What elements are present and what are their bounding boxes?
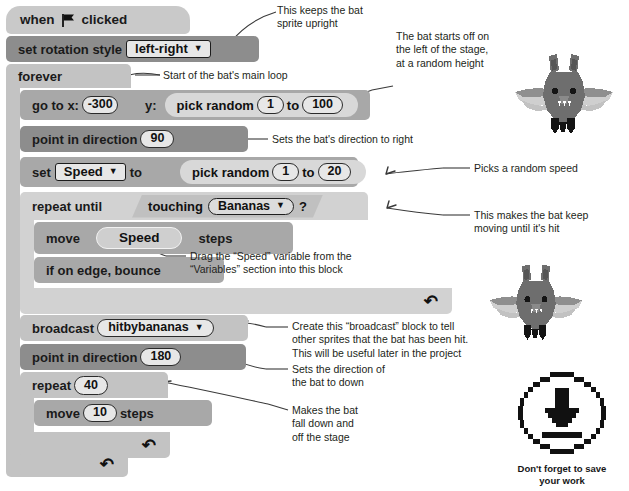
green-flag-icon — [61, 13, 76, 28]
pick-random-label: pick random — [177, 99, 254, 112]
chevron-down-icon: ▼ — [195, 323, 204, 332]
chevron-down-icon: ▼ — [276, 201, 285, 210]
forever-header[interactable]: forever — [6, 64, 131, 88]
repeat-left-spine — [20, 398, 34, 432]
forever-left-spine — [6, 88, 20, 451]
pick-random-from-input[interactable]: 1 — [257, 96, 284, 114]
go-to-x-label: go to x: — [32, 99, 79, 112]
note-random-speed: Picks a random speed — [474, 162, 624, 175]
block-broadcast[interactable]: broadcast hitbybananas ▼ — [20, 315, 248, 341]
repeat-until-left-spine — [20, 220, 34, 288]
repeat-until-label: repeat until — [32, 199, 102, 214]
loop-arrow-icon: ↷ — [424, 291, 438, 312]
direction-value-input[interactable]: 180 — [140, 348, 181, 366]
bat-sprite-icon — [509, 48, 619, 144]
point-in-direction-label: point in direction — [32, 351, 137, 364]
bat-sprite-icon — [484, 258, 588, 350]
repeat-until-footer[interactable]: ↷ — [20, 288, 452, 314]
when-label: when — [20, 13, 55, 27]
bat-sprite-bottom — [484, 258, 588, 354]
note-main-loop: Start of the bat's main loop — [163, 69, 343, 82]
speed-variable-dropdown[interactable]: Speed ▼ — [55, 163, 126, 181]
repeat-header[interactable]: repeat 40 — [20, 372, 168, 398]
repeat-until-header[interactable]: repeat until touching Bananas ▼ ? — [20, 192, 368, 220]
save-reminder: Don't forget to save your work — [512, 370, 612, 487]
block-point-in-direction-90[interactable]: point in direction 90 — [20, 126, 248, 152]
save-reminder-caption: Don't forget to save your work — [512, 463, 612, 487]
move-label: move — [46, 232, 80, 245]
if-on-edge-bounce-label: if on edge, bounce — [46, 264, 161, 277]
block-set-speed[interactable]: set Speed ▼ to pick random 1 to 20 — [20, 157, 358, 187]
block-point-in-direction-180[interactable]: point in direction 180 — [20, 344, 246, 370]
note-broadcast: Create this “broadcast” block to tell ot… — [292, 320, 507, 360]
forever-label: forever — [18, 69, 62, 84]
set-label: set — [32, 166, 51, 179]
steps-label: steps — [198, 232, 232, 245]
pick-random-to-label: to — [287, 99, 299, 112]
block-move-10-steps[interactable]: move 10 steps — [34, 400, 212, 426]
move-label: move — [46, 407, 80, 420]
block-when-flag-clicked[interactable]: when clicked — [6, 6, 190, 34]
y-label: y: — [145, 99, 157, 112]
pick-random-to-label: to — [302, 166, 314, 179]
note-direction-right: Sets the bat's direction to right — [272, 133, 472, 146]
touching-label: touching — [148, 199, 203, 214]
note-upright: This keeps the bat sprite upright — [277, 4, 417, 31]
pick-random-to-input[interactable]: 100 — [302, 96, 343, 114]
loop-arrow-icon: ↷ — [142, 435, 156, 456]
chevron-down-icon: ▼ — [109, 167, 118, 176]
download-save-icon — [512, 370, 612, 456]
speed-variable-label: Speed — [119, 231, 160, 245]
pick-random-label: pick random — [192, 166, 269, 179]
speed-variable-name: Speed — [64, 165, 103, 178]
block-set-rotation-style[interactable]: set rotation style left-right ▼ — [6, 36, 259, 62]
touching-question-mark: ? — [299, 199, 307, 214]
repeat-label: repeat — [32, 378, 71, 393]
x-value-input[interactable]: -300 — [82, 96, 118, 114]
note-fall-down: Makes the bat fall down and off the stag… — [292, 404, 402, 444]
pick-random-from-input[interactable]: 1 — [272, 163, 299, 181]
touching-boolean[interactable]: touching Bananas ▼ ? — [132, 195, 323, 218]
speed-variable-reporter[interactable]: Speed — [96, 227, 183, 249]
repeat-footer[interactable]: ↷ — [20, 432, 170, 458]
touching-target-value: Bananas — [218, 199, 270, 213]
broadcast-label: broadcast — [32, 322, 94, 335]
pick-random-reporter-speed[interactable]: pick random 1 to 20 — [180, 160, 366, 184]
set-rotation-style-label: set rotation style — [18, 43, 122, 56]
touching-target-dropdown[interactable]: Bananas ▼ — [208, 198, 294, 215]
note-keep-moving: This makes the bat keep moving until it'… — [474, 209, 626, 236]
note-drag-speed: Drag the “Speed” variable from the “Vari… — [190, 250, 410, 277]
block-go-to-xy[interactable]: go to x: -300 y: pick random 1 to 100 — [20, 90, 370, 120]
move-steps-input[interactable]: 10 — [83, 404, 117, 422]
scratch-script-diagram: when clicked set rotation style left-rig… — [0, 0, 629, 491]
pick-random-reporter-y[interactable]: pick random 1 to 100 — [165, 93, 358, 117]
broadcast-message-value: hitbybananas — [108, 321, 189, 334]
rotation-style-dropdown[interactable]: left-right ▼ — [126, 40, 211, 58]
repeat-count-input[interactable]: 40 — [74, 376, 108, 395]
direction-value-input[interactable]: 90 — [140, 130, 174, 148]
chevron-down-icon: ▼ — [194, 44, 203, 53]
point-in-direction-label: point in direction — [32, 133, 137, 146]
broadcast-message-dropdown[interactable]: hitbybananas ▼ — [97, 319, 214, 337]
note-direction-down: Sets the direction of the bat to down — [292, 363, 442, 390]
to-label: to — [130, 166, 142, 179]
steps-label: steps — [120, 407, 154, 420]
clicked-label: clicked — [82, 13, 128, 27]
bat-sprite-top — [509, 48, 619, 148]
rotation-style-value: left-right — [135, 42, 188, 55]
pick-random-to-input[interactable]: 20 — [318, 163, 352, 181]
